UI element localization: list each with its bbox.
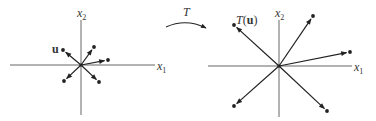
right-y-axis-label: x2 [275, 7, 284, 22]
transform-label: T [183, 6, 190, 18]
left-axes [10, 20, 155, 115]
vector-arrow [237, 66, 279, 104]
vector-tu-label: T(u) [236, 14, 257, 26]
vector-arrow [67, 65, 81, 79]
vector-endpoint-dot [232, 104, 236, 108]
vector-arrow [279, 53, 347, 66]
vector-endpoint-dot [92, 45, 96, 49]
right-axes [208, 20, 352, 117]
transform-arrow [166, 23, 206, 28]
left-x-axis-label: x1 [157, 60, 166, 75]
vector-endpoint-dot [106, 58, 110, 62]
vector-arrow [66, 52, 81, 65]
vector-arrow [279, 66, 324, 109]
vector-arrow [279, 19, 311, 66]
left-y-axis-label: x2 [77, 7, 86, 22]
vector-arrow [81, 61, 105, 65]
vector-endpoint-dot [97, 80, 101, 84]
vector-arrow [81, 65, 96, 80]
origin-point [79, 63, 82, 66]
left-vectors [61, 45, 110, 84]
vector-endpoint-dot [311, 14, 315, 18]
vector-endpoint-dot [62, 79, 66, 83]
linear-transformation-diagram: x2 x1 u T x2 x1 T(u) [0, 0, 376, 121]
vector-arrow [237, 27, 279, 66]
vector-endpoint-dot [348, 50, 352, 54]
right-x-axis-label: x1 [354, 61, 363, 76]
vector-endpoint-dot [325, 109, 329, 113]
vector-endpoint-dot [61, 48, 65, 52]
vector-u-label: u [52, 43, 59, 55]
origin-point [277, 64, 280, 67]
right-vectors [232, 14, 352, 113]
